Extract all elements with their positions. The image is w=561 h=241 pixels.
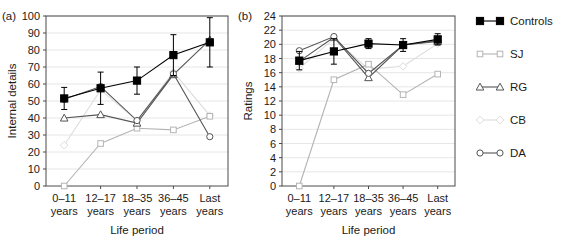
- y-tick-label: 0: [270, 180, 276, 192]
- chart-legend: ControlsSJRGCBDA: [476, 15, 553, 159]
- y-tick-label: 10: [264, 109, 276, 121]
- y-tick-label: 8: [270, 123, 276, 135]
- x-axis-title: Life period: [110, 224, 164, 236]
- legend-label: DA: [510, 147, 526, 159]
- y-tick-label: 0: [34, 180, 40, 192]
- x-tick-label: years: [390, 205, 417, 217]
- series-line: [299, 64, 437, 186]
- series-controls: [61, 18, 214, 110]
- marker-open-circle: [477, 150, 483, 156]
- x-axis-title: Life period: [342, 224, 396, 236]
- data-point: [435, 71, 441, 77]
- x-tick-label: Last: [199, 192, 220, 204]
- legend-marker-left: [477, 150, 483, 156]
- legend-label: Controls: [510, 15, 553, 27]
- legend-item-sj[interactable]: SJ: [477, 48, 523, 60]
- x-tick-label: years: [196, 205, 223, 217]
- y-tick-label: 14: [264, 81, 276, 93]
- marker-open-square: [171, 127, 177, 133]
- x-tick-label: 0–11: [52, 192, 76, 204]
- data-point: [330, 48, 337, 55]
- y-tick-label: 90: [28, 27, 40, 39]
- figure-svg: 01020304050607080901000–11years12–17year…: [0, 0, 561, 241]
- data-point: [206, 39, 213, 46]
- data-point: [97, 85, 104, 92]
- marker-open-square: [98, 141, 104, 147]
- data-point: [207, 114, 213, 120]
- marker-open-square: [61, 183, 67, 189]
- marker-open-square: [207, 114, 213, 120]
- data-point: [297, 183, 303, 189]
- y-tick-label: 16: [264, 67, 276, 79]
- legend-item-controls[interactable]: Controls: [476, 15, 553, 27]
- data-point: [365, 70, 371, 76]
- x-tick-label: 0–11: [287, 192, 311, 204]
- marker-open-square: [497, 51, 503, 57]
- x-tick-label: years: [286, 205, 313, 217]
- y-tick-label: 10: [28, 163, 40, 175]
- x-tick-label: 18–35: [353, 192, 384, 204]
- legend-label: RG: [510, 81, 527, 93]
- y-axis-title: Ratings: [242, 81, 254, 120]
- x-tick-label: years: [320, 205, 347, 217]
- y-tick-label: 12: [264, 95, 276, 107]
- y-tick-label: 70: [28, 61, 40, 73]
- legend-marker-left: [476, 17, 483, 24]
- legend-marker-left: [477, 51, 483, 57]
- marker-filled-square: [330, 48, 337, 55]
- x-tick-label: 36–45: [388, 192, 419, 204]
- data-point: [134, 117, 140, 123]
- data-point: [399, 62, 407, 70]
- marker-open-square: [331, 77, 337, 83]
- marker-open-triangle: [97, 111, 105, 118]
- data-point: [170, 52, 177, 59]
- x-tick-label: 18–35: [122, 192, 153, 204]
- marker-open-circle: [207, 134, 213, 140]
- marker-open-square: [400, 92, 406, 98]
- marker-open-circle: [365, 70, 371, 76]
- marker-filled-square: [61, 95, 68, 102]
- marker-filled-square: [434, 36, 441, 43]
- data-point: [60, 141, 68, 149]
- panel-label: (b): [238, 10, 252, 22]
- y-tick-label: 50: [28, 95, 40, 107]
- y-tick-label: 18: [264, 53, 276, 65]
- legend-item-cb[interactable]: CB: [476, 114, 526, 126]
- data-point: [434, 36, 441, 43]
- data-point: [400, 41, 407, 48]
- y-tick-label: 60: [28, 78, 40, 90]
- x-tick-label: years: [160, 205, 187, 217]
- y-tick-label: 40: [28, 112, 40, 124]
- y-tick-label: 22: [264, 24, 276, 36]
- marker-filled-square: [365, 40, 372, 47]
- data-point: [331, 77, 337, 83]
- y-tick-label: 6: [270, 138, 276, 150]
- y-tick-label: 20: [28, 146, 40, 158]
- data-point: [296, 57, 303, 64]
- y-tick-label: 30: [28, 129, 40, 141]
- y-tick-label: 20: [264, 38, 276, 50]
- legend-item-rg[interactable]: RG: [476, 81, 527, 93]
- legend-marker-right: [497, 51, 503, 57]
- marker-open-diamond: [60, 141, 68, 149]
- marker-open-diamond: [496, 116, 504, 124]
- y-tick-label: 24: [264, 10, 276, 22]
- marker-open-circle: [497, 150, 503, 156]
- marker-open-diamond: [476, 116, 484, 124]
- legend-marker-right: [496, 116, 504, 124]
- data-point: [400, 92, 406, 98]
- marker-filled-square: [400, 41, 407, 48]
- marker-filled-square: [206, 39, 213, 46]
- legend-item-da[interactable]: DA: [477, 147, 526, 159]
- x-tick-label: 12–17: [85, 192, 116, 204]
- data-point: [365, 40, 372, 47]
- x-tick-label: years: [87, 205, 114, 217]
- legend-label: SJ: [510, 48, 523, 60]
- x-tick-label: Last: [427, 192, 448, 204]
- data-point: [171, 127, 177, 133]
- marker-filled-square: [133, 77, 140, 84]
- marker-filled-square: [170, 52, 177, 59]
- marker-open-square: [477, 51, 483, 57]
- marker-open-diamond: [399, 62, 407, 70]
- legend-marker-left: [476, 116, 484, 124]
